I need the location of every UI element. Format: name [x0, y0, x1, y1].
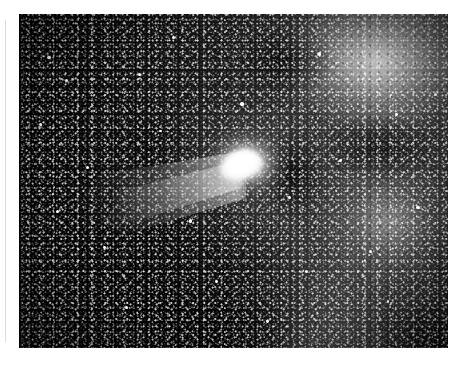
field-star: [125, 306, 128, 309]
dark-dust-lanes: [19, 14, 448, 348]
field-star: [434, 93, 437, 96]
field-star: [103, 246, 106, 249]
field-star: [215, 280, 218, 283]
field-star: [86, 166, 89, 169]
star-field-layer-bright: [19, 14, 448, 348]
field-star: [65, 79, 68, 82]
field-star: [305, 270, 308, 273]
field-star: [138, 73, 141, 76]
field-star: [189, 219, 192, 222]
field-star: [339, 159, 342, 162]
comet-tail-inner: [107, 160, 242, 230]
field-star: [159, 130, 162, 133]
field-star: [266, 320, 269, 323]
film-grain-layer: [19, 14, 448, 348]
field-star: [288, 196, 291, 199]
field-star: [369, 250, 372, 253]
comet-tail: [71, 142, 246, 250]
field-star: [39, 123, 42, 126]
field-star: [228, 173, 231, 176]
field-star: [395, 113, 398, 116]
field-star: [387, 300, 390, 303]
page-root: [0, 0, 467, 367]
field-star: [240, 102, 243, 105]
comet-coma: [191, 126, 285, 210]
field-star: [318, 52, 321, 55]
star-field-layer-medium: [19, 14, 448, 348]
comet-nucleus: [216, 145, 267, 186]
field-star: [56, 210, 59, 213]
comet-photograph: [19, 14, 448, 348]
film-vignette: [19, 14, 448, 348]
field-star: [416, 206, 419, 209]
field-star: [47, 56, 51, 60]
field-star: [172, 36, 175, 39]
scan-artifact-line: [5, 20, 6, 342]
